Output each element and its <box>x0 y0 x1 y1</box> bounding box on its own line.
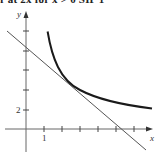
hyperbola-curve <box>48 32 152 109</box>
x-axis: 1 x <box>5 126 154 143</box>
y-axis-label: y <box>16 9 21 19</box>
y-tick-label-2: 2 <box>16 105 21 115</box>
x-axis-label: x <box>149 133 154 143</box>
tangent-line-diagram: 1 x 2 y <box>0 0 157 155</box>
x-tick-label-1: 1 <box>42 133 47 143</box>
y-axis-arrow-icon <box>24 11 29 18</box>
x-axis-arrow-icon <box>146 127 153 132</box>
y-axis: 2 y <box>16 9 29 152</box>
